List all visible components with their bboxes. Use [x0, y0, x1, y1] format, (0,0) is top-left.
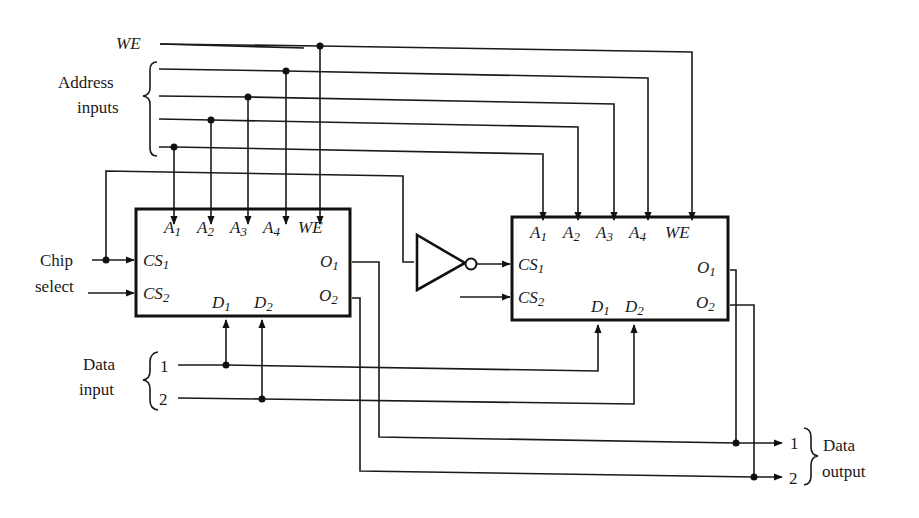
svg-text:A4: A4 — [628, 223, 646, 244]
inverter-gate — [417, 235, 510, 290]
svg-text:CS1: CS1 — [143, 251, 169, 272]
svg-text:A4: A4 — [262, 218, 280, 239]
svg-text:D1: D1 — [590, 297, 610, 318]
chip-1-pin-labels: A1 A2 A3 A4 WE CS1 CS2 D1 D2 O1 O2 — [143, 218, 339, 314]
data-in-1-label: 1 — [160, 357, 169, 376]
svg-text:WE: WE — [665, 223, 690, 242]
data-input-label: Data — [83, 355, 116, 374]
data-output-brace — [804, 428, 818, 485]
data-out-2-label: 2 — [789, 469, 798, 488]
svg-text:O1: O1 — [320, 252, 339, 273]
svg-text:O2: O2 — [319, 286, 338, 307]
chip-2-pin-labels: A1 A2 A3 A4 WE CS1 CS2 D1 D2 O1 O2 — [518, 223, 716, 318]
svg-text:O1: O1 — [697, 258, 716, 279]
svg-text:A2: A2 — [562, 223, 580, 244]
data-input-wiring — [178, 320, 634, 404]
data-in-2-label: 2 — [159, 390, 168, 409]
data-out-1-label: 1 — [790, 434, 799, 453]
svg-text:CS2: CS2 — [518, 288, 545, 309]
svg-text:A3: A3 — [229, 218, 247, 239]
we-label: WE — [116, 34, 141, 53]
ram-circuit-diagram: WE Address inputs Chip select Data input… — [0, 0, 919, 518]
svg-text:CS1: CS1 — [518, 255, 544, 276]
svg-text:D1: D1 — [211, 293, 231, 314]
select-label: select — [35, 277, 74, 296]
svg-text:A3: A3 — [595, 223, 613, 244]
inverter-bubble — [466, 259, 477, 270]
svg-text:D2: D2 — [253, 293, 273, 314]
svg-text:CS2: CS2 — [143, 284, 170, 305]
svg-text:WE: WE — [298, 218, 323, 237]
chip-label: Chip — [40, 251, 73, 270]
data-output-label: Data — [823, 436, 856, 455]
inputs-label: inputs — [77, 98, 119, 117]
junction-dot — [317, 43, 324, 50]
output-label: output — [822, 462, 866, 481]
svg-text:A1: A1 — [163, 218, 181, 239]
address-brace — [143, 62, 157, 156]
input-label: input — [79, 380, 114, 399]
svg-text:D2: D2 — [624, 297, 644, 318]
data-input-brace — [143, 352, 158, 410]
svg-text:O2: O2 — [696, 293, 715, 314]
svg-text:A1: A1 — [529, 223, 547, 244]
address-label: Address — [58, 73, 114, 92]
